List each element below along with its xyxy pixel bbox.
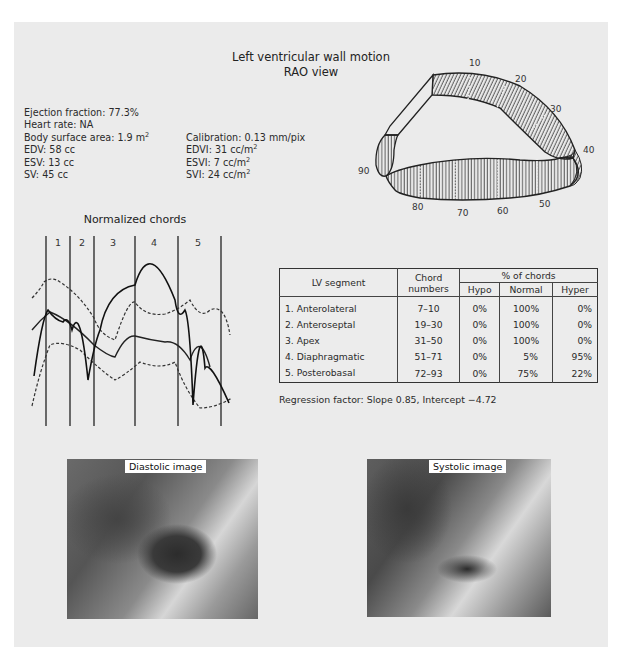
segment-labels: 1 2 3 4 5: [55, 237, 201, 248]
diastolic-image: Diastolic image: [67, 459, 258, 619]
header-hyper: Hyper: [552, 283, 597, 297]
regression-factor: Regression factor: Slope 0.85, Intercept…: [279, 394, 497, 405]
systolic-image: Systolic image: [367, 459, 551, 617]
table-row: 2. Anteroseptal 19–30 0% 100% 0%: [280, 316, 598, 332]
svg-text:2: 2: [79, 237, 85, 248]
segment-table: LV segment Chord numbers % of chords Hyp…: [279, 268, 598, 383]
header-percent-of-chords: % of chords: [460, 269, 598, 283]
header-hypo: Hypo: [460, 283, 500, 297]
svg-text:5: 5: [195, 237, 201, 248]
table-row: 4. Diaphragmatic 51–71 0% 5% 95%: [280, 348, 598, 364]
header-lv-segment: LV segment: [280, 269, 398, 297]
header-chord-numbers: Chord numbers: [398, 269, 460, 297]
systolic-image-label: Systolic image: [429, 460, 506, 473]
svg-text:1: 1: [55, 237, 61, 248]
table-row: 3. Apex 31–50 0% 100% 0%: [280, 332, 598, 348]
svg-text:3: 3: [110, 237, 116, 248]
svg-text:4: 4: [151, 237, 157, 248]
table-row: 5. Posterobasal 72–93 0% 75% 22%: [280, 364, 598, 383]
header-normal: Normal: [500, 283, 553, 297]
diastolic-image-label: Diastolic image: [125, 460, 206, 473]
table-row: 1. Anterolateral 7–10 0% 100% 0%: [280, 297, 598, 317]
